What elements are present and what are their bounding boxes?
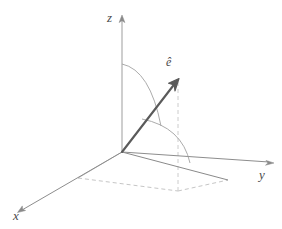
guide-line-origin-to-right-corner: [122, 152, 228, 180]
y-axis-line: [122, 152, 269, 162]
dashed-edge-x-to-far-corner: [78, 178, 178, 191]
dashed-edge-far-corner-to-y: [178, 180, 228, 191]
z-axis-label: z: [107, 11, 112, 24]
y-axis-label: y: [259, 168, 265, 181]
axes-diagram-canvas: [0, 0, 282, 229]
unit-vector-shaft: [122, 84, 175, 152]
unit-vector-label: ê: [166, 56, 171, 68]
coordinate-system-figure: z y x ê: [0, 0, 282, 229]
unit-vector-e: [122, 79, 179, 153]
y-axis: [122, 152, 274, 165]
x-axis-line: [22, 152, 122, 210]
y-axis-arrowhead: [266, 160, 275, 165]
polar-angle-arc: [122, 64, 161, 126]
projection-box-dashed: [78, 178, 228, 191]
plane-guide-lines: [78, 152, 228, 180]
z-axis: [119, 15, 125, 152]
x-axis: [18, 152, 123, 213]
x-axis-label: x: [13, 209, 19, 222]
